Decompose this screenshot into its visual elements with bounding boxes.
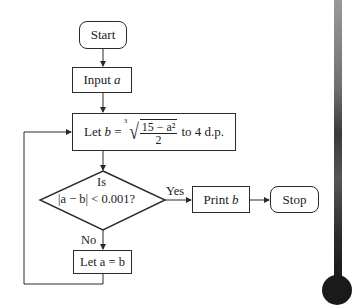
yes-label: Yes	[166, 184, 184, 199]
start-terminal: Start	[79, 21, 127, 49]
start-label: Start	[91, 27, 116, 43]
update-box: Let a = b	[73, 250, 132, 274]
radical-sign-icon: √	[129, 119, 139, 146]
compute-suffix: to 4 d.p.	[181, 124, 224, 140]
decision-line2: |a − b| < 0.001?	[58, 192, 135, 207]
update-text: Let a = b	[80, 255, 125, 270]
fraction: 15 − a² 2	[140, 121, 178, 146]
input-box: Input a	[72, 67, 132, 93]
denominator: 2	[156, 134, 162, 146]
input-prefix: Input	[83, 72, 110, 88]
print-var: b	[232, 192, 239, 208]
print-box: Print b	[192, 186, 250, 213]
stop-label: Stop	[283, 192, 307, 208]
compute-var: b	[105, 124, 112, 140]
input-var: a	[114, 72, 121, 88]
compute-prefix: Let	[84, 124, 101, 140]
compute-eq: =	[114, 124, 121, 140]
numerator: 15 − a²	[140, 121, 178, 134]
no-label: No	[81, 233, 96, 248]
cube-root: 3 √ 15 − a² 2	[128, 119, 178, 146]
compute-box: Let b = 3 √ 15 − a² 2 to 4 d.p.	[72, 113, 236, 151]
root-index: 3	[124, 117, 128, 125]
print-prefix: Print	[203, 192, 228, 208]
stop-terminal: Stop	[270, 186, 319, 213]
decision-line1: Is	[97, 175, 106, 190]
